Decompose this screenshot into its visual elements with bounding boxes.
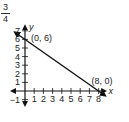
y-axis-label: y [28, 22, 34, 32]
x-axis-label: x [108, 86, 114, 96]
x-tick-label: 1 [32, 94, 37, 104]
x-tick-label: 7 [87, 94, 92, 104]
x-tick-label: 5 [68, 94, 73, 104]
y-tick-label: 4 [15, 52, 20, 62]
y-tick-label: 1 [15, 77, 20, 87]
x-tick-label: 6 [78, 94, 83, 104]
x-tick-label: 3 [50, 94, 55, 104]
x-tick-label: 4 [59, 94, 64, 104]
y-tick-label: 2 [15, 69, 20, 79]
y-tick-label: 3 [15, 60, 20, 70]
x-tick-label: 2 [41, 94, 46, 104]
y-tick-label: −1 [10, 95, 20, 105]
point-label-x-intercept: (8, 0) [92, 76, 113, 86]
point-label-y-intercept: (0, 6) [31, 33, 52, 43]
x-tick-label: 8 [96, 94, 101, 104]
coordinate-plot: 12345678−11234567xy(0, 6)(8, 0) [0, 0, 129, 122]
y-tick-label: 5 [15, 43, 20, 53]
